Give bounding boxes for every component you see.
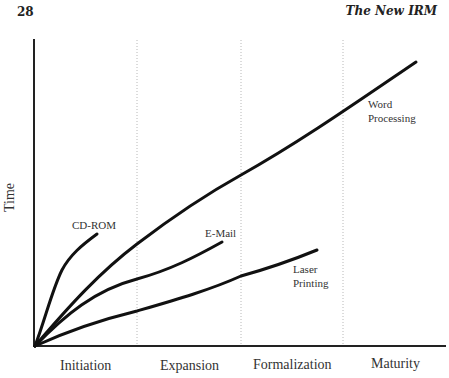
x-label-expansion: Expansion <box>160 358 219 373</box>
curve-cd-rom <box>35 234 97 346</box>
x-label-initiation: Initiation <box>60 358 111 373</box>
x-label-formalization: Formalization <box>253 357 332 372</box>
y-axis-label: Time <box>2 183 17 212</box>
stage-gridlines <box>137 40 343 345</box>
curve-word-processing <box>35 62 416 346</box>
label-laser-line1: Laser <box>293 263 318 275</box>
stage-growth-chart: CD-ROM E-Mail Laser Printing Word Proces… <box>0 0 449 378</box>
label-cd-rom: CD-ROM <box>72 219 116 231</box>
label-laser-line2: Printing <box>293 277 329 289</box>
label-word-line1: Word <box>368 98 393 110</box>
label-e-mail: E-Mail <box>205 227 236 239</box>
label-word-line2: Processing <box>368 112 416 124</box>
x-label-maturity: Maturity <box>371 356 420 371</box>
